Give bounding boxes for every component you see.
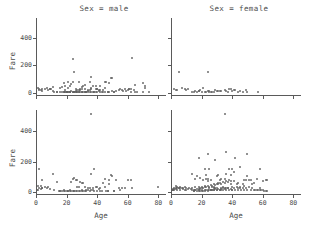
data-point xyxy=(108,179,110,181)
x-tick xyxy=(67,96,68,99)
data-point xyxy=(216,183,218,185)
y-tick xyxy=(168,65,171,66)
data-point xyxy=(222,189,224,191)
data-point xyxy=(113,190,115,192)
data-point xyxy=(64,85,66,87)
panel-male-died xyxy=(36,18,166,96)
data-point xyxy=(92,187,94,189)
data-point xyxy=(242,91,244,93)
data-point xyxy=(234,89,236,91)
data-point xyxy=(72,58,74,60)
data-point xyxy=(259,168,261,170)
data-point xyxy=(61,86,63,88)
data-point xyxy=(245,179,247,181)
data-point xyxy=(130,91,132,93)
data-point xyxy=(219,182,221,184)
panel-male-survived xyxy=(36,110,166,195)
x-tick xyxy=(158,195,159,198)
data-point xyxy=(119,189,121,191)
data-point xyxy=(142,91,144,93)
data-point xyxy=(191,173,193,175)
x-axis-line xyxy=(36,194,166,195)
data-point xyxy=(99,187,101,189)
data-point xyxy=(239,186,241,188)
data-point xyxy=(233,180,235,182)
data-point xyxy=(95,85,97,87)
data-point xyxy=(239,90,241,92)
data-point xyxy=(111,77,113,79)
data-point xyxy=(187,188,189,190)
data-point xyxy=(89,190,91,192)
x-axis-line xyxy=(36,95,166,96)
x-tick-label: 60 xyxy=(124,199,132,207)
y-tick xyxy=(33,93,36,94)
plot-area-male-survived xyxy=(36,110,166,195)
column-title-female: Sex = female xyxy=(171,4,307,13)
x-tick xyxy=(232,96,233,99)
data-point xyxy=(210,189,212,191)
data-point xyxy=(63,82,65,84)
x-tick-label: 60 xyxy=(259,199,267,207)
data-point xyxy=(253,182,255,184)
data-point xyxy=(93,168,95,170)
data-point xyxy=(262,180,264,182)
data-point xyxy=(130,179,132,181)
data-point xyxy=(225,151,227,153)
x-tick xyxy=(202,195,203,198)
x-tick xyxy=(293,195,294,198)
data-point xyxy=(234,189,236,191)
data-point xyxy=(266,190,268,192)
y-tick xyxy=(33,65,36,66)
data-point xyxy=(193,190,195,192)
data-point xyxy=(84,84,86,86)
data-point xyxy=(90,173,92,175)
data-point xyxy=(136,91,138,93)
y-tick xyxy=(168,162,171,163)
data-point xyxy=(208,168,210,170)
data-point xyxy=(107,190,109,192)
data-point xyxy=(52,173,54,175)
x-tick-label: 0 xyxy=(169,199,173,207)
data-point xyxy=(225,189,227,191)
data-point xyxy=(199,190,201,192)
data-point xyxy=(108,183,110,185)
data-point xyxy=(102,182,104,184)
data-point xyxy=(228,168,230,170)
x-axis-label-right: Age xyxy=(171,211,301,220)
data-point xyxy=(201,91,203,93)
x-axis-line xyxy=(171,194,301,195)
data-point xyxy=(231,189,233,191)
data-point xyxy=(76,179,78,181)
data-point xyxy=(225,173,227,175)
y-tick-label: 0 xyxy=(12,89,32,97)
data-point xyxy=(178,71,180,73)
data-point xyxy=(90,113,92,115)
data-point xyxy=(179,189,181,191)
data-point xyxy=(207,71,209,73)
data-point xyxy=(78,91,80,93)
data-point xyxy=(53,91,55,93)
data-point xyxy=(214,159,216,161)
data-point xyxy=(72,81,74,83)
data-point xyxy=(230,174,232,176)
x-tick-label: 20 xyxy=(63,199,71,207)
data-point xyxy=(220,178,222,180)
data-point xyxy=(253,189,255,191)
data-point xyxy=(257,91,259,93)
x-tick xyxy=(263,96,264,99)
data-point xyxy=(233,171,235,173)
data-point xyxy=(134,84,136,86)
x-axis-line xyxy=(171,95,301,96)
data-point xyxy=(213,91,215,93)
x-tick xyxy=(36,96,37,99)
data-point xyxy=(52,86,54,88)
plot-area-male-died xyxy=(36,18,166,96)
data-point xyxy=(239,166,241,168)
x-tick-label: 20 xyxy=(198,199,206,207)
column-title-male: Sex = male xyxy=(36,4,172,13)
y-axis-line xyxy=(36,18,37,96)
data-point xyxy=(92,85,94,87)
data-point xyxy=(56,91,58,93)
data-point xyxy=(204,168,206,170)
data-point xyxy=(176,89,178,91)
